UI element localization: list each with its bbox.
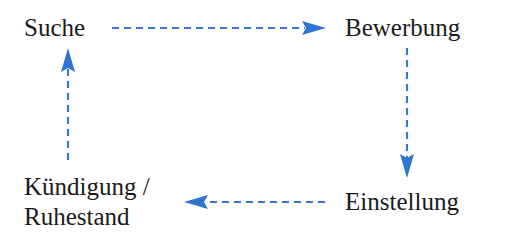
arrowhead-up-icon	[61, 48, 75, 72]
arrows-layer	[0, 0, 508, 240]
arrowhead-right-icon	[302, 21, 326, 35]
arrowhead-left-icon	[184, 195, 208, 209]
